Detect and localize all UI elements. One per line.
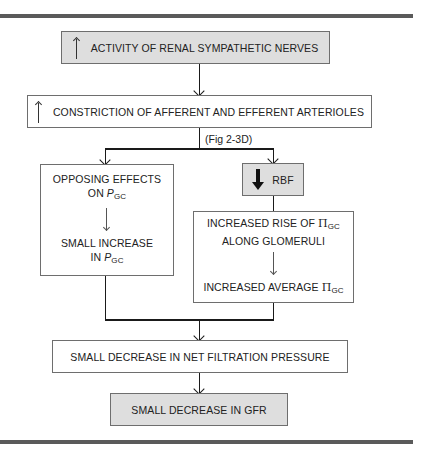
net-filtration-pressure-label: SMALL DECREASE IN NET FILTRATION PRESSUR… <box>70 351 329 363</box>
merge-left <box>105 276 106 320</box>
bottom-rule <box>0 440 413 444</box>
branch-horizontal <box>105 148 274 150</box>
connector-rbf <box>273 196 274 211</box>
opposing-effects-line2: ON PGC <box>88 186 126 204</box>
oncotic-line3: INCREASED AVERAGE ΠGC <box>203 280 343 298</box>
rbf-label: RBF <box>272 174 293 186</box>
oncotic-line2: ALONG GLOMERULI <box>222 234 325 248</box>
up-arrow-icon <box>35 101 43 123</box>
opposing-effects-line1: OPPOSING EFFECTS <box>53 172 161 186</box>
oncotic-line1: INCREASED RISE OF ΠGC <box>207 216 340 234</box>
rbf-box: RBF <box>242 163 304 196</box>
sympathetic-activity-label: ACTIVITY OF RENAL SYMPATHETIC NERVES <box>91 42 319 54</box>
down-arrow-icon <box>103 208 111 232</box>
arteriole-constriction-box: CONSTRICTION OF AFFERENT AND EFFERENT AR… <box>27 95 372 128</box>
net-filtration-pressure-box: SMALL DECREASE IN NET FILTRATION PRESSUR… <box>52 340 348 373</box>
small-increase-line2: IN PGC <box>90 250 123 268</box>
top-rule <box>0 14 413 18</box>
gfr-label: SMALL DECREASE IN GFR <box>131 404 266 416</box>
down-arrow-thick-icon <box>252 169 264 191</box>
up-arrow-icon <box>73 37 81 59</box>
merge-right <box>273 303 274 320</box>
arteriole-constriction-label: CONSTRICTION OF AFFERENT AND EFFERENT AR… <box>53 106 364 118</box>
gfr-box: SMALL DECREASE IN GFR <box>110 393 288 426</box>
oncotic-pressure-box: INCREASED RISE OF ΠGC ALONG GLOMERULI IN… <box>193 211 354 303</box>
merge-horizontal <box>105 319 274 321</box>
opposing-effects-box: OPPOSING EFFECTS ON PGC SMALL INCREASE I… <box>40 164 174 276</box>
small-increase-line1: SMALL INCREASE <box>61 236 153 250</box>
figure-reference: (Fig 2-3D) <box>205 133 252 145</box>
sympathetic-activity-box: ACTIVITY OF RENAL SYMPATHETIC NERVES <box>61 31 330 64</box>
down-arrow-icon <box>270 252 278 276</box>
connector-2 <box>199 128 200 149</box>
